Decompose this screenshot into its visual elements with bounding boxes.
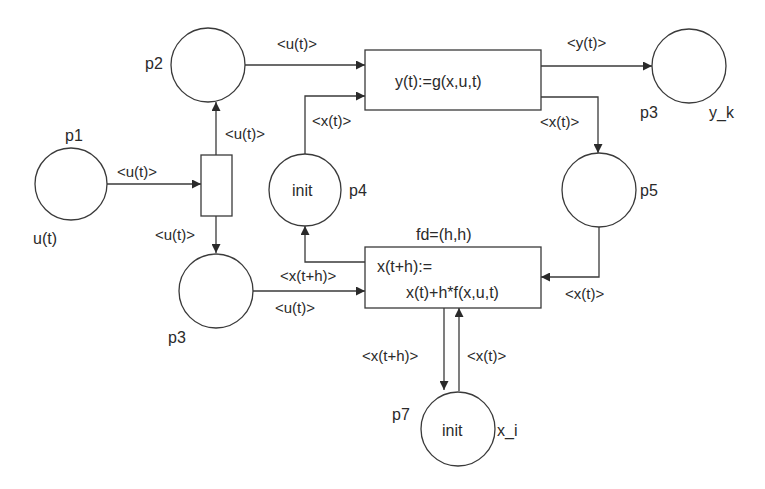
- transition-output-label: y(t):=g(x,u,t): [395, 73, 482, 90]
- transition-integrate-delay: fd=(h,h): [416, 226, 472, 243]
- arc-label-split-p2: <u(t)>: [225, 125, 265, 142]
- petri-net-diagram: p1 u(t) p2 p3 p3 y_k init p4 p5 init p7 …: [0, 0, 765, 489]
- place-p3-yk-annotation: y_k: [709, 104, 735, 122]
- transition-split[interactable]: [201, 155, 232, 216]
- arc-label-p1-split: <u(t)>: [117, 163, 157, 180]
- transition-integrate-label-1: x(t+h):=: [377, 258, 432, 275]
- place-p1[interactable]: [35, 148, 107, 220]
- arc-label-split-p3: <u(t)>: [155, 226, 195, 243]
- place-p2-name: p2: [145, 55, 163, 72]
- place-p5-name: p5: [640, 182, 658, 199]
- transition-integrate-label-2: x(t)+h*f(x,u,t): [406, 284, 499, 301]
- place-p3-yk-name: p3: [640, 104, 658, 121]
- place-p3-yk[interactable]: [652, 29, 726, 103]
- arc-integrate-p4: [305, 226, 365, 262]
- arc-label-p3-integrate: <u(t)>: [275, 299, 315, 316]
- arc-label-output-p5: <x(t)>: [540, 113, 579, 130]
- place-p4-token: init: [292, 182, 313, 199]
- arc-p5-integrate: [541, 227, 599, 277]
- arc-label-p4-output: <x(t)>: [312, 112, 351, 129]
- arc-label-p7-integrate: <x(t)>: [467, 347, 506, 364]
- arc-label-integrate-p7: <x(t+h)>: [362, 347, 419, 364]
- place-p1-name: p1: [65, 127, 83, 144]
- place-p7-name: p7: [392, 406, 410, 423]
- arc-label-p5-integrate: <x(t)>: [565, 285, 604, 302]
- place-p5[interactable]: [562, 153, 636, 227]
- place-p2[interactable]: [171, 28, 245, 102]
- arc-label-integrate-p4: <x(t+h)>: [280, 267, 337, 284]
- place-p3-name: p3: [168, 329, 186, 346]
- place-p3[interactable]: [179, 254, 253, 328]
- place-p7-token: init: [442, 422, 463, 439]
- place-p7-annotation: x_i: [497, 422, 517, 440]
- place-p1-annotation: u(t): [33, 230, 57, 247]
- arc-label-output-p3b: <y(t)>: [567, 34, 606, 51]
- arc-label-p2-output: <u(t)>: [277, 35, 317, 52]
- place-p4-name: p4: [349, 182, 367, 199]
